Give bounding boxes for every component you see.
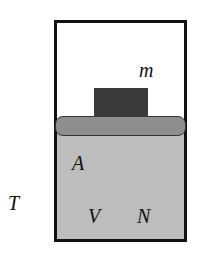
- piston: [55, 116, 186, 136]
- label-particles: N: [137, 206, 150, 226]
- label-temperature: T: [8, 193, 19, 213]
- gas-region: [57, 126, 184, 239]
- label-volume: V: [88, 206, 100, 226]
- label-mass: m: [139, 60, 153, 80]
- mass-block: [94, 88, 148, 117]
- label-area: A: [72, 153, 84, 173]
